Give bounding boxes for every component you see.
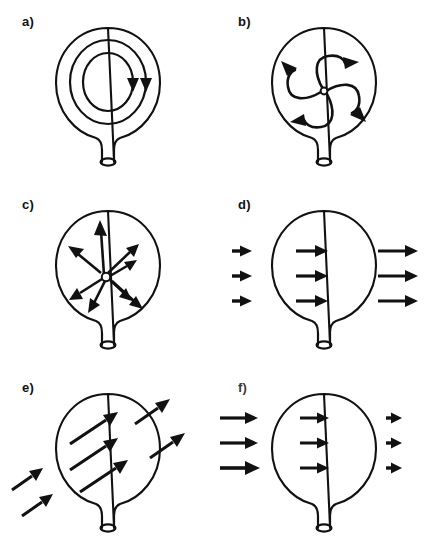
- balloon-neck-c: [102, 333, 114, 345]
- panel-d-diagram: [216, 183, 433, 365]
- pinwheel-arrowhead-upper-left: [281, 61, 297, 76]
- balloon-shape-f: [272, 394, 376, 532]
- balloon-neck-b: [318, 150, 330, 162]
- balloon-shape-d: [272, 211, 376, 349]
- flow-arrow-upstream-3: [220, 461, 260, 475]
- panel-f-diagram: [216, 366, 433, 548]
- panel-b: b): [216, 0, 432, 182]
- divergence-rays-c: [68, 220, 143, 313]
- divergence-arrowhead-up: [94, 220, 107, 236]
- flow-arrow-interior-3: [300, 463, 329, 474]
- panel-d: d): [216, 183, 432, 365]
- flow-arrow-upstream-3: [232, 296, 252, 307]
- flow-arrow-downstream-3: [378, 295, 418, 307]
- figure-root: a) b): [0, 0, 433, 548]
- balloon-neck-f: [318, 516, 330, 528]
- flow-arrow-downstream-3: [386, 463, 402, 474]
- balloon-outline-f: [272, 394, 376, 526]
- flow-arrow-upstream-1: [232, 246, 252, 257]
- divergence-ray-up-left: [68, 246, 101, 273]
- flow-arrow-downstream-2: [386, 438, 402, 449]
- balloon-neck-a: [102, 150, 114, 162]
- flow-arrow-upstream-2: [220, 437, 258, 449]
- panel-e-diagram: [0, 366, 216, 548]
- panel-a: a): [0, 0, 216, 182]
- circulation-arrowhead-inner: [127, 78, 139, 92]
- oblique-arrow-downstream-2: [150, 433, 185, 458]
- panel-e: e): [0, 366, 216, 548]
- panel-c-diagram: [0, 183, 216, 365]
- flow-arrow-interior-1: [296, 245, 328, 257]
- divergence-arrowhead-left-down: [69, 288, 83, 300]
- panel-f: f): [216, 366, 432, 548]
- divergence-ray-up: [94, 220, 107, 275]
- flow-arrows-upstream-f: [220, 412, 260, 475]
- flow-arrows-upstream-d: [232, 246, 252, 307]
- oblique-arrow-upstream-1: [12, 468, 43, 490]
- flow-arrow-interior-3: [296, 295, 328, 307]
- flow-arrow-upstream-1: [220, 412, 258, 424]
- oblique-arrows-interior-e: [70, 412, 128, 492]
- balloon-neck-e: [102, 516, 114, 528]
- pinwheel-center-marker: [321, 88, 328, 95]
- panel-a-diagram: [0, 0, 216, 182]
- pinwheel-arrowhead-lower-left: [290, 114, 306, 126]
- panel-c: c): [0, 183, 216, 365]
- flow-arrow-downstream-2: [378, 270, 418, 282]
- flow-arrow-downstream-1: [386, 413, 402, 424]
- balloon-outline-e: [56, 394, 160, 526]
- circulation-loop-inner: [83, 53, 133, 111]
- flow-arrows-interior-d: [296, 245, 328, 307]
- flow-arrow-downstream-1: [378, 245, 418, 257]
- flow-arrow-interior-2: [300, 438, 329, 449]
- balloon-neck-d: [318, 333, 330, 345]
- pinwheel-arrowhead-upper-right: [343, 57, 359, 69]
- pinwheel-arms-b: [281, 56, 366, 128]
- flow-arrow-upstream-2: [232, 271, 252, 282]
- divergence-ray-down-right-far: [112, 281, 143, 309]
- circulation-arrowhead-outer: [140, 78, 152, 92]
- divergence-center-marker: [102, 273, 110, 281]
- flow-arrows-downstream-f: [386, 413, 402, 474]
- oblique-arrow-interior-3: [80, 460, 128, 492]
- pinwheel-arrowhead-lower-right: [350, 107, 366, 122]
- oblique-arrows-upstream-e: [12, 468, 53, 516]
- oblique-arrow-upstream-2: [22, 494, 53, 516]
- panel-b-diagram: [216, 0, 433, 182]
- flow-arrow-interior-2: [296, 270, 328, 282]
- flow-arrows-downstream-d: [378, 245, 418, 307]
